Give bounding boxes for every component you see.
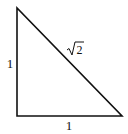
hypotenuse-label: 2 xyxy=(67,42,84,57)
bottom-side-label: 1 xyxy=(66,118,73,133)
right-triangle-diagram: 1 1 2 xyxy=(0,0,128,134)
hypotenuse-radicand: 2 xyxy=(77,43,83,57)
left-side-label: 1 xyxy=(7,56,14,71)
triangle-shape xyxy=(17,8,122,116)
